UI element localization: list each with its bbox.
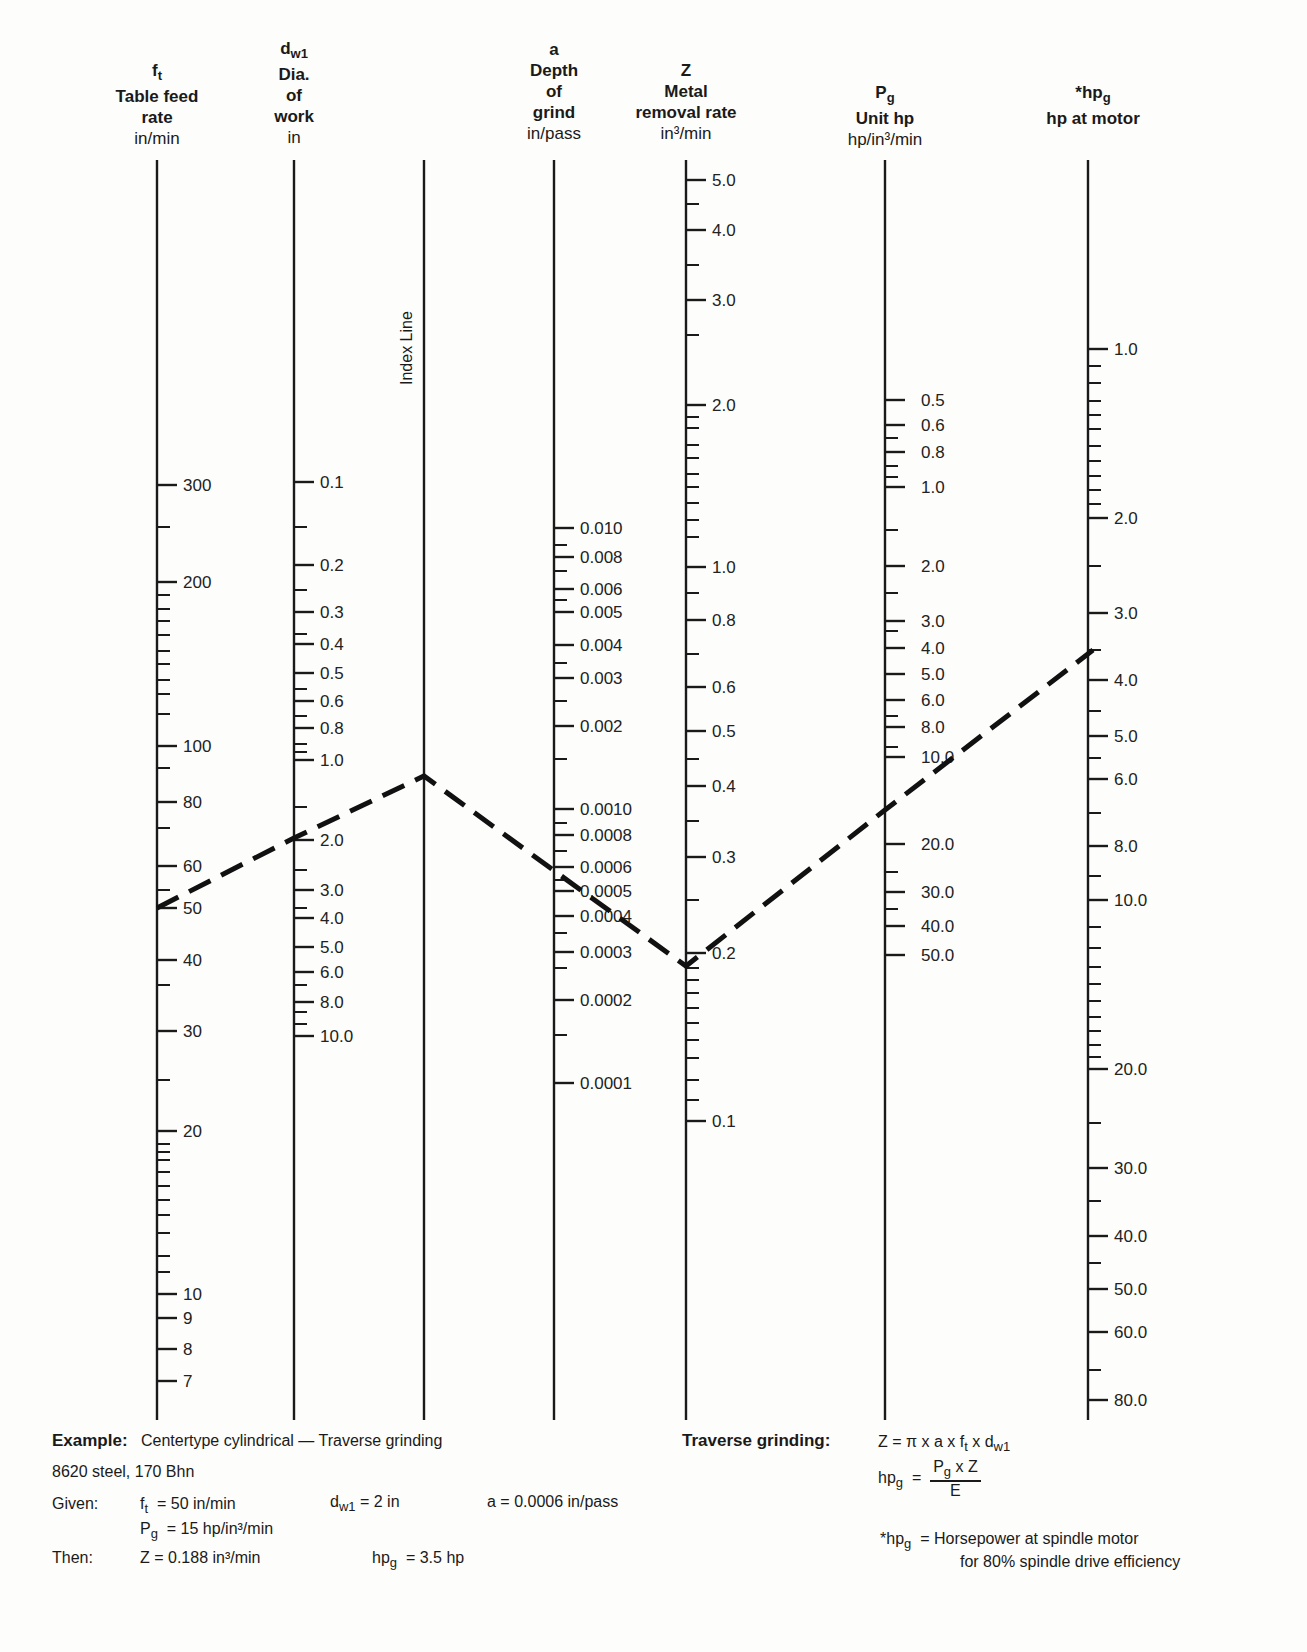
- z-title-2: removal rate: [616, 102, 756, 123]
- ft-title-1: Table feed: [97, 86, 217, 107]
- dw1-title-1: Dia.: [244, 64, 344, 85]
- dw1-title-3: work: [244, 106, 344, 127]
- tick-label-Pg: 5.0: [921, 665, 945, 684]
- tick-label-ft: 10: [183, 1285, 202, 1304]
- tick-label-a: 0.008: [580, 548, 623, 567]
- tick-label-a: 0.0008: [580, 826, 632, 845]
- dw1-title-2: of: [244, 85, 344, 106]
- tick-label-Z: 0.4: [712, 777, 736, 796]
- given-pg: Pg = 15 hp/in³/min: [140, 1520, 273, 1541]
- tick-label-Z: 0.1: [712, 1112, 736, 1131]
- then-z: Z = 0.188 in³/min: [140, 1549, 261, 1567]
- tick-label-Z: 0.2: [712, 944, 736, 963]
- tick-label-ft: 30: [183, 1022, 202, 1041]
- tick-label-Pg: 50.0: [921, 946, 954, 965]
- tick-label-dw1: 0.1: [320, 473, 344, 492]
- tick-label-dw1: 8.0: [320, 993, 344, 1012]
- hpg-note-2: for 80% spindle drive efficiency: [960, 1553, 1180, 1571]
- tick-label-ft: 9: [183, 1309, 192, 1328]
- tick-label-a: 0.0001: [580, 1074, 632, 1093]
- tick-label-hpg: 10.0: [1114, 891, 1147, 910]
- hpg-title-1: hp at motor: [1018, 108, 1168, 129]
- tick-label-ft: 200: [183, 573, 211, 592]
- a-symbol: a: [494, 39, 614, 60]
- then-hpg: hpg = 3.5 hp: [372, 1549, 464, 1570]
- pg-title-1: Unit hp: [825, 108, 945, 129]
- tick-label-dw1: 0.8: [320, 719, 344, 738]
- header-dw1: dw1 Dia. of work in: [244, 38, 344, 148]
- tick-label-hpg: 2.0: [1114, 509, 1138, 528]
- tick-label-hpg: 30.0: [1114, 1159, 1147, 1178]
- tick-label-a: 0.010: [580, 519, 623, 538]
- formula-heading: Traverse grinding:: [682, 1431, 830, 1451]
- dw1-symbol: d: [280, 39, 290, 58]
- tick-label-dw1: 10.0: [320, 1027, 353, 1046]
- ft-title-2: rate: [97, 107, 217, 128]
- tick-label-Pg: 3.0: [921, 612, 945, 631]
- given-a: a = 0.0006 in/pass: [487, 1493, 618, 1511]
- tick-label-Z: 4.0: [712, 221, 736, 240]
- dw1-unit: in: [244, 127, 344, 148]
- tick-label-hpg: 3.0: [1114, 604, 1138, 623]
- tick-label-Pg: 20.0: [921, 835, 954, 854]
- hpg-symbol: *hp: [1075, 83, 1102, 102]
- example-material: 8620 steel, 170 Bhn: [52, 1463, 194, 1481]
- tick-label-Pg: 0.8: [921, 443, 945, 462]
- tick-label-dw1: 0.3: [320, 603, 344, 622]
- tick-label-Z: 5.0: [712, 171, 736, 190]
- tick-label-dw1: 2.0: [320, 831, 344, 850]
- header-z: Z Metal removal rate in³/min: [616, 60, 756, 144]
- example-description: Centertype cylindrical — Traverse grindi…: [141, 1432, 442, 1449]
- tick-label-ft: 20: [183, 1122, 202, 1141]
- tick-label-ft: 300: [183, 476, 211, 495]
- tick-label-ft: 100: [183, 737, 211, 756]
- tick-label-dw1: 4.0: [320, 909, 344, 928]
- tick-label-Pg: 6.0: [921, 691, 945, 710]
- tick-label-a: 0.0003: [580, 943, 632, 962]
- tick-label-dw1: 6.0: [320, 963, 344, 982]
- tick-label-Z: 0.8: [712, 611, 736, 630]
- tick-label-Pg: 40.0: [921, 917, 954, 936]
- tick-label-a: 0.0005: [580, 882, 632, 901]
- tick-label-Pg: 4.0: [921, 639, 945, 658]
- tick-label-Z: 0.3: [712, 848, 736, 867]
- tick-label-Z: 2.0: [712, 396, 736, 415]
- a-title-1: Depth: [494, 60, 614, 81]
- formula-hpg: hpg = Pg x ZE: [878, 1458, 981, 1500]
- given-ft: ft = 50 in/min: [140, 1495, 236, 1516]
- header-hpg: *hpg hp at motor: [1018, 82, 1168, 129]
- tick-label-dw1: 1.0: [320, 751, 344, 770]
- tick-label-Pg: 10.0: [921, 748, 954, 767]
- tick-label-a: 0.0006: [580, 858, 632, 877]
- tick-label-Pg: 8.0: [921, 718, 945, 737]
- tick-label-Z: 0.6: [712, 678, 736, 697]
- tick-label-hpg: 6.0: [1114, 770, 1138, 789]
- index-line-label: Index Line: [398, 311, 416, 385]
- tick-label-a: 0.004: [580, 636, 623, 655]
- tick-label-dw1: 0.2: [320, 556, 344, 575]
- tick-label-Z: 1.0: [712, 558, 736, 577]
- tick-label-hpg: 80.0: [1114, 1391, 1147, 1410]
- tick-label-Pg: 0.6: [921, 416, 945, 435]
- tick-label-Pg: 0.5: [921, 391, 945, 410]
- tick-label-dw1: 5.0: [320, 938, 344, 957]
- tick-label-dw1: 0.6: [320, 692, 344, 711]
- given-label: Given:: [52, 1495, 98, 1513]
- tick-label-hpg: 1.0: [1114, 340, 1138, 359]
- example-heading: Example: Centertype cylindrical — Traver…: [52, 1431, 442, 1451]
- header-a: a Depth of grind in/pass: [494, 39, 614, 144]
- ft-unit: in/min: [97, 128, 217, 149]
- tick-label-ft: 60: [183, 857, 202, 876]
- tick-label-Z: 0.5: [712, 722, 736, 741]
- pg-symbol: P: [875, 83, 886, 102]
- tick-label-a: 0.0010: [580, 800, 632, 819]
- tick-label-ft: 50: [183, 899, 202, 918]
- tick-label-hpg: 60.0: [1114, 1323, 1147, 1342]
- z-title-1: Metal: [616, 81, 756, 102]
- tick-label-Pg: 1.0: [921, 478, 945, 497]
- tick-label-Pg: 30.0: [921, 883, 954, 902]
- a-title-3: grind: [494, 102, 614, 123]
- tick-label-a: 0.005: [580, 603, 623, 622]
- tick-label-a: 0.0002: [580, 991, 632, 1010]
- tick-label-hpg: 40.0: [1114, 1227, 1147, 1246]
